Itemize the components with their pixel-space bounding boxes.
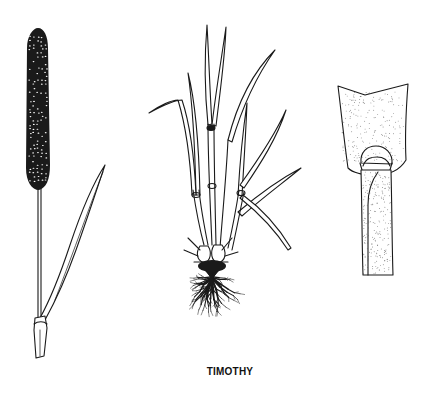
- stipple-dot: [364, 242, 365, 243]
- plant-leaf: [240, 110, 286, 188]
- stipple-dot: [367, 267, 368, 268]
- stipple-dot: [371, 256, 372, 257]
- plant-leaf: [212, 27, 226, 126]
- stipple-dot: [361, 96, 362, 97]
- stipple-dot: [388, 267, 389, 268]
- stipple-dot: [365, 177, 366, 178]
- stipple-dot: [366, 131, 367, 132]
- stipple-dot: [400, 127, 401, 128]
- stipple-dot: [384, 202, 385, 203]
- spikelet-mark: [34, 148, 36, 149]
- spikelet-mark: [33, 168, 35, 169]
- stipple-dot: [376, 159, 377, 160]
- stipple-dot: [375, 262, 376, 263]
- stipple-dot: [366, 149, 367, 150]
- spikelet-mark: [28, 79, 30, 80]
- stipple-dot: [383, 220, 384, 221]
- spikelet-mark: [29, 40, 31, 41]
- stipple-dot: [355, 155, 356, 156]
- stipple-dot: [400, 133, 401, 134]
- stipple-dot: [379, 231, 380, 232]
- stipple-dot: [373, 106, 374, 107]
- stipple-dot: [342, 125, 343, 126]
- root-strand: [217, 312, 218, 317]
- stipple-dot: [359, 93, 360, 94]
- stipple-dot: [387, 245, 388, 246]
- stipple-dot: [390, 152, 391, 153]
- stipple-dot: [388, 234, 389, 235]
- stipple-dot: [369, 252, 370, 253]
- stipple-dot: [374, 238, 375, 239]
- spikelet-mark: [37, 152, 39, 153]
- stipple-dot: [380, 177, 381, 178]
- stipple-dot: [395, 128, 396, 129]
- stipple-dot: [380, 234, 381, 235]
- stipple-dot: [357, 148, 358, 149]
- spikelet-mark: [33, 101, 35, 102]
- spikelet-mark: [45, 173, 47, 174]
- stipple-dot: [343, 150, 344, 151]
- spikelet-mark: [30, 133, 32, 134]
- stipple-dot: [383, 143, 384, 144]
- stipple-dot: [383, 216, 384, 217]
- stipple-dot: [368, 235, 369, 236]
- stipple-dot: [385, 184, 386, 185]
- stipple-dot: [388, 238, 389, 239]
- stipple-dot: [378, 174, 379, 175]
- spikelet-mark: [37, 108, 39, 109]
- stipple-dot: [377, 156, 378, 157]
- stipple-dot: [345, 105, 346, 106]
- stipple-dot: [369, 213, 370, 214]
- spikelet-mark: [33, 155, 35, 156]
- spikelet-mark: [33, 145, 35, 146]
- stipple-dot: [377, 268, 378, 269]
- spikelet-mark: [45, 48, 47, 49]
- stipple-dot: [364, 235, 365, 236]
- stipple-dot: [353, 96, 354, 97]
- stipple-dot: [364, 196, 365, 197]
- stipple-dot: [381, 100, 382, 101]
- stipple-dot: [384, 111, 385, 112]
- stipple-dot: [372, 100, 373, 101]
- spikelet-mark: [41, 37, 43, 38]
- stipple-dot: [395, 155, 396, 156]
- stipple-dot: [398, 121, 399, 122]
- stipple-dot: [363, 199, 364, 200]
- spikelet-mark: [33, 129, 35, 130]
- stipple-dot: [363, 220, 364, 221]
- stipple-dot: [387, 230, 388, 231]
- stipple-dot: [363, 273, 364, 274]
- stipple-dot: [354, 97, 355, 98]
- spikelet-mark: [29, 69, 31, 70]
- stipple-dot: [388, 269, 389, 270]
- stipple-dot: [363, 212, 364, 213]
- stipple-dot: [372, 176, 373, 177]
- stipple-dot: [370, 221, 371, 222]
- stipple-dot: [393, 133, 394, 134]
- root-strand: [229, 298, 234, 301]
- stipple-dot: [384, 229, 385, 230]
- stipple-dot: [354, 94, 355, 95]
- stipple-dot: [367, 243, 368, 244]
- stipple-dot: [390, 256, 391, 257]
- stipple-dot: [364, 218, 365, 219]
- stipple-dot: [369, 110, 370, 111]
- spikelet-mark: [41, 153, 43, 154]
- stipple-dot: [391, 96, 392, 97]
- stipple-dot: [360, 133, 361, 134]
- stipple-dot: [368, 259, 369, 260]
- spikelet-mark: [29, 172, 31, 173]
- stipple-dot: [353, 141, 354, 142]
- stipple-dot: [375, 181, 376, 182]
- spikelet-mark: [29, 36, 31, 37]
- spikelet-mark: [32, 120, 34, 121]
- stipple-dot: [382, 257, 383, 258]
- stipple-dot: [348, 159, 349, 160]
- stipple-dot: [377, 233, 378, 234]
- stipple-dot: [379, 153, 380, 154]
- spikelet-mark: [42, 116, 44, 117]
- root-strand: [211, 311, 213, 315]
- stipple-dot: [385, 177, 386, 178]
- stipple-dot: [389, 184, 390, 185]
- stipple-dot: [370, 181, 371, 182]
